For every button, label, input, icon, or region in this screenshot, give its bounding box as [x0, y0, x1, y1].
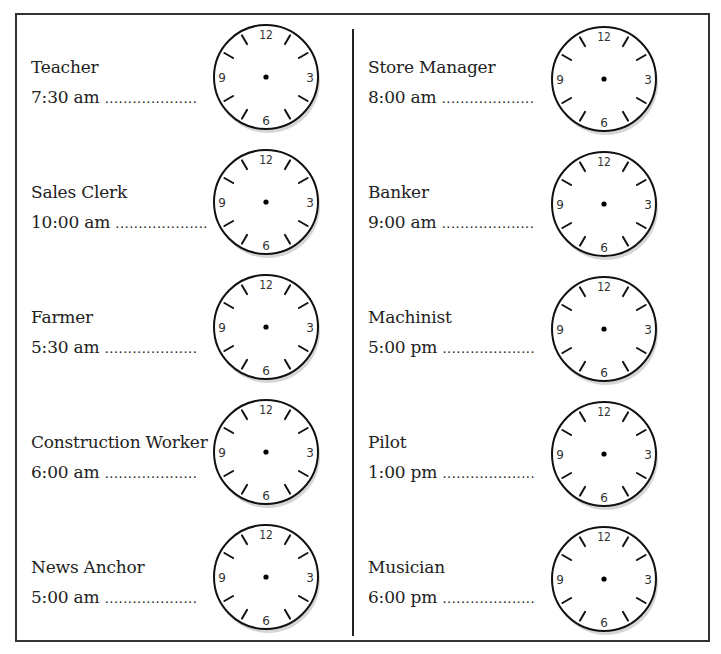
time-text: 5:30 am: [31, 337, 99, 357]
svg-text:9: 9: [556, 73, 564, 87]
column-divider: [352, 29, 354, 636]
time-text: 7:30 am: [31, 87, 99, 107]
clock-face-icon: 12 3 6 9: [211, 522, 321, 632]
svg-text:6: 6: [600, 241, 608, 255]
clock[interactable]: 12 3 6 9: [211, 522, 321, 632]
job-title: Musician: [368, 557, 445, 577]
time-line: 10:00 am ....................: [31, 212, 208, 232]
clock-face-icon: 12 3 6 9: [211, 22, 321, 132]
dotted-leader: ....................: [442, 91, 535, 106]
svg-text:12: 12: [259, 28, 273, 42]
time-line: 5:00 pm ....................: [368, 337, 535, 357]
clock-face-icon: 12 3 6 9: [549, 149, 659, 259]
time-text: 8:00 am: [368, 87, 436, 107]
job-title: News Anchor: [31, 557, 144, 577]
clock[interactable]: 12 3 6 9: [549, 24, 659, 134]
svg-text:3: 3: [306, 196, 314, 210]
svg-text:6: 6: [262, 614, 270, 628]
dotted-leader: ....................: [442, 591, 535, 606]
svg-text:6: 6: [600, 616, 608, 630]
clock-face-icon: 12 3 6 9: [549, 524, 659, 634]
svg-text:3: 3: [644, 198, 652, 212]
svg-text:3: 3: [644, 323, 652, 337]
job-title: Construction Worker: [31, 432, 208, 452]
time-line: 5:30 am ....................: [31, 337, 197, 357]
svg-text:12: 12: [259, 153, 273, 167]
clock[interactable]: 12 3 6 9: [549, 274, 659, 384]
clock[interactable]: 12 3 6 9: [211, 272, 321, 382]
svg-text:9: 9: [556, 448, 564, 462]
clock[interactable]: 12 3 6 9: [549, 149, 659, 259]
time-line: 5:00 am ....................: [31, 587, 197, 607]
svg-text:3: 3: [306, 446, 314, 460]
svg-text:12: 12: [259, 528, 273, 542]
dotted-leader: ....................: [442, 466, 535, 481]
svg-text:12: 12: [597, 155, 611, 169]
svg-text:9: 9: [218, 571, 226, 585]
svg-text:12: 12: [597, 30, 611, 44]
clock-face-icon: 12 3 6 9: [549, 24, 659, 134]
svg-text:6: 6: [262, 489, 270, 503]
svg-text:12: 12: [597, 280, 611, 294]
job-title: Banker: [368, 182, 429, 202]
time-line: 7:30 am ....................: [31, 87, 197, 107]
clock-face-icon: 12 3 6 9: [549, 399, 659, 509]
time-line: 6:00 am ....................: [31, 462, 197, 482]
job-title: Store Manager: [368, 57, 495, 77]
time-text: 10:00 am: [31, 212, 110, 232]
clock-face-icon: 12 3 6 9: [211, 147, 321, 257]
job-title: Sales Clerk: [31, 182, 127, 202]
svg-text:9: 9: [218, 446, 226, 460]
job-title: Pilot: [368, 432, 406, 452]
svg-text:6: 6: [262, 114, 270, 128]
svg-text:9: 9: [556, 323, 564, 337]
clock-face-icon: 12 3 6 9: [549, 274, 659, 384]
clock[interactable]: 12 3 6 9: [549, 399, 659, 509]
time-text: 1:00 pm: [368, 462, 437, 482]
svg-text:9: 9: [218, 71, 226, 85]
svg-text:3: 3: [306, 321, 314, 335]
time-text: 9:00 am: [368, 212, 436, 232]
svg-text:6: 6: [600, 366, 608, 380]
job-title: Machinist: [368, 307, 452, 327]
job-title: Farmer: [31, 307, 93, 327]
svg-text:3: 3: [644, 573, 652, 587]
svg-text:6: 6: [600, 116, 608, 130]
time-text: 6:00 pm: [368, 587, 437, 607]
job-title: Teacher: [31, 57, 98, 77]
svg-text:3: 3: [644, 448, 652, 462]
svg-text:9: 9: [556, 198, 564, 212]
svg-text:3: 3: [306, 71, 314, 85]
svg-text:12: 12: [597, 405, 611, 419]
time-text: 5:00 am: [31, 587, 99, 607]
dotted-leader: ....................: [105, 341, 198, 356]
clock[interactable]: 12 3 6 9: [211, 397, 321, 507]
dotted-leader: ....................: [442, 341, 535, 356]
svg-text:9: 9: [218, 321, 226, 335]
time-line: 8:00 am ....................: [368, 87, 534, 107]
time-text: 6:00 am: [31, 462, 99, 482]
dotted-leader: ....................: [105, 466, 198, 481]
dotted-leader: ....................: [115, 216, 208, 231]
time-line: 6:00 pm ....................: [368, 587, 535, 607]
svg-text:6: 6: [600, 491, 608, 505]
time-line: 9:00 am ....................: [368, 212, 534, 232]
svg-text:6: 6: [262, 239, 270, 253]
clock-face-icon: 12 3 6 9: [211, 272, 321, 382]
dotted-leader: ....................: [105, 591, 198, 606]
clock-face-icon: 12 3 6 9: [211, 397, 321, 507]
svg-text:12: 12: [597, 530, 611, 544]
clock[interactable]: 12 3 6 9: [211, 147, 321, 257]
svg-text:9: 9: [556, 573, 564, 587]
dotted-leader: ....................: [442, 216, 535, 231]
clock[interactable]: 12 3 6 9: [211, 22, 321, 132]
svg-text:3: 3: [306, 571, 314, 585]
svg-text:6: 6: [262, 364, 270, 378]
time-line: 1:00 pm ....................: [368, 462, 535, 482]
time-text: 5:00 pm: [368, 337, 437, 357]
clock[interactable]: 12 3 6 9: [549, 524, 659, 634]
svg-text:12: 12: [259, 278, 273, 292]
svg-text:9: 9: [218, 196, 226, 210]
svg-text:3: 3: [644, 73, 652, 87]
svg-text:12: 12: [259, 403, 273, 417]
